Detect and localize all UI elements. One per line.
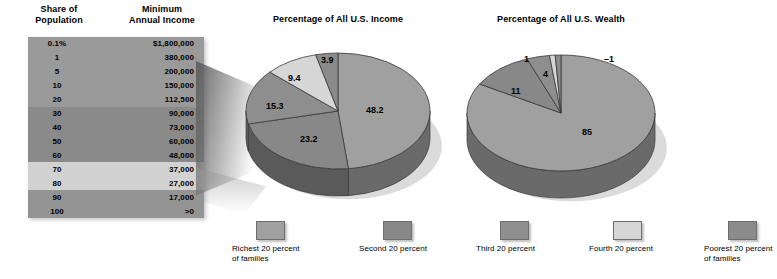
pie-value-label: 85: [582, 127, 592, 137]
table-cell-income: 17,000: [86, 193, 204, 202]
pie-income-svg: [238, 33, 440, 205]
table-row: 9017,000: [28, 190, 204, 204]
pie-value-label: 3.9: [321, 55, 334, 65]
table-cell-income: 37,000: [86, 165, 204, 174]
table-cell-income: $1,800,000: [86, 39, 204, 48]
legend-label-line2: of families: [232, 254, 350, 264]
income-pie-chart: 48.223.215.39.43.9: [238, 33, 440, 205]
table-row: 0.1%$1,800,000: [28, 37, 204, 51]
legend-item[interactable]: Third 20 percent: [500, 221, 529, 240]
table-header-share-line2: Population: [14, 15, 104, 26]
table-cell-income: 27,000: [86, 179, 204, 188]
table-row: 3090,000: [28, 107, 204, 121]
wealth-pie-chart: 851141–1: [458, 33, 664, 205]
table-cell-share: 5: [28, 67, 86, 76]
table-cell-share: 0.1%: [28, 39, 86, 48]
legend-label: Third 20 percent: [476, 244, 594, 254]
legend-label: Poorest 20 percentof families: [704, 244, 777, 263]
table-row: 5060,000: [28, 134, 204, 148]
legend-label: Fourth 20 percent: [589, 244, 707, 254]
legend-label-line1: Richest 20 percent: [232, 244, 350, 254]
table-body: 0.1%$1,800,0001380,0005200,00010150,0002…: [28, 37, 204, 218]
table-header-share-line1: Share of: [14, 4, 104, 15]
income-distribution-table: Share of Population Minimum Annual Incom…: [0, 0, 222, 222]
table-header-income-line1: Minimum: [112, 4, 212, 15]
legend-swatch: [500, 221, 529, 240]
table-cell-income: 380,000: [86, 53, 204, 62]
table-cell-share: 80: [28, 179, 86, 188]
legend-swatch: [256, 221, 285, 240]
pie-top-faces: [246, 53, 430, 169]
pie-wealth-svg: [458, 33, 664, 205]
table-row: 4073,000: [28, 121, 204, 135]
table-cell-income: 48,000: [86, 151, 204, 160]
table-cell-share: 10: [28, 81, 86, 90]
table-row: 7037,000: [28, 162, 204, 176]
legend-label-line1: Third 20 percent: [476, 244, 594, 254]
table-row: 100>0: [28, 204, 204, 218]
legend-label: Richest 20 percentof families: [232, 244, 350, 263]
table-cell-share: 100: [28, 207, 86, 216]
table-cell-share: 1: [28, 53, 86, 62]
table-row: 8027,000: [28, 176, 204, 190]
table-cell-share: 70: [28, 165, 86, 174]
table-row: 6048,000: [28, 148, 204, 162]
legend-item[interactable]: Fourth 20 percent: [613, 221, 642, 240]
legend-swatch: [728, 221, 757, 240]
pie-value-label: 15.3: [266, 101, 284, 111]
pie-value-label: 48.2: [366, 105, 384, 115]
table-row: 10150,000: [28, 79, 204, 93]
pie-value-label: 23.2: [300, 134, 318, 144]
table-cell-income: 73,000: [86, 123, 204, 132]
table-cell-income: 150,000: [86, 81, 204, 90]
table-cell-share: 40: [28, 123, 86, 132]
table-cell-income: 60,000: [86, 137, 204, 146]
chart-legend: Richest 20 percentof familiesSecond 20 p…: [228, 221, 674, 277]
table-cell-share: 60: [28, 151, 86, 160]
legend-label-line1: Poorest 20 percent: [704, 244, 777, 254]
table-cell-income: >0: [86, 207, 204, 216]
legend-item[interactable]: Richest 20 percentof families: [256, 221, 285, 240]
table-cell-income: 90,000: [86, 109, 204, 118]
legend-swatch: [383, 221, 412, 240]
table-row: 1380,000: [28, 51, 204, 65]
table-header-income-line2: Annual Income: [112, 15, 212, 26]
legend-label: Second 20 percent: [359, 244, 477, 254]
table-row: 5200,000: [28, 65, 204, 79]
table-header-income: Minimum Annual Income: [112, 4, 212, 25]
legend-item[interactable]: Second 20 percent: [383, 221, 412, 240]
table-cell-share: 50: [28, 137, 86, 146]
pie-value-label: 9.4: [288, 73, 301, 83]
pie-value-label: 4: [543, 69, 548, 79]
pie-value-label: 1: [524, 54, 529, 64]
table-cell-income: 200,000: [86, 67, 204, 76]
legend-label-line1: Fourth 20 percent: [589, 244, 707, 254]
wealth-chart-title: Percentage of All U.S. Wealth: [455, 14, 667, 24]
table-cell-income: 112,500: [86, 95, 204, 104]
table-cell-share: 20: [28, 95, 86, 104]
table-header-share: Share of Population: [14, 4, 104, 25]
legend-label-line1: Second 20 percent: [359, 244, 477, 254]
table-cell-share: 30: [28, 109, 86, 118]
pie-value-label: –1: [604, 54, 614, 64]
pie-top-faces: [467, 55, 655, 171]
legend-label-line2: of families: [704, 254, 777, 264]
pie-value-label: 11: [511, 86, 521, 96]
legend-item[interactable]: Poorest 20 percentof families: [728, 221, 757, 240]
income-chart-title: Percentage of All U.S. Income: [238, 14, 438, 24]
table-cell-share: 90: [28, 193, 86, 202]
table-row: 20112,500: [28, 93, 204, 107]
legend-swatch: [613, 221, 642, 240]
